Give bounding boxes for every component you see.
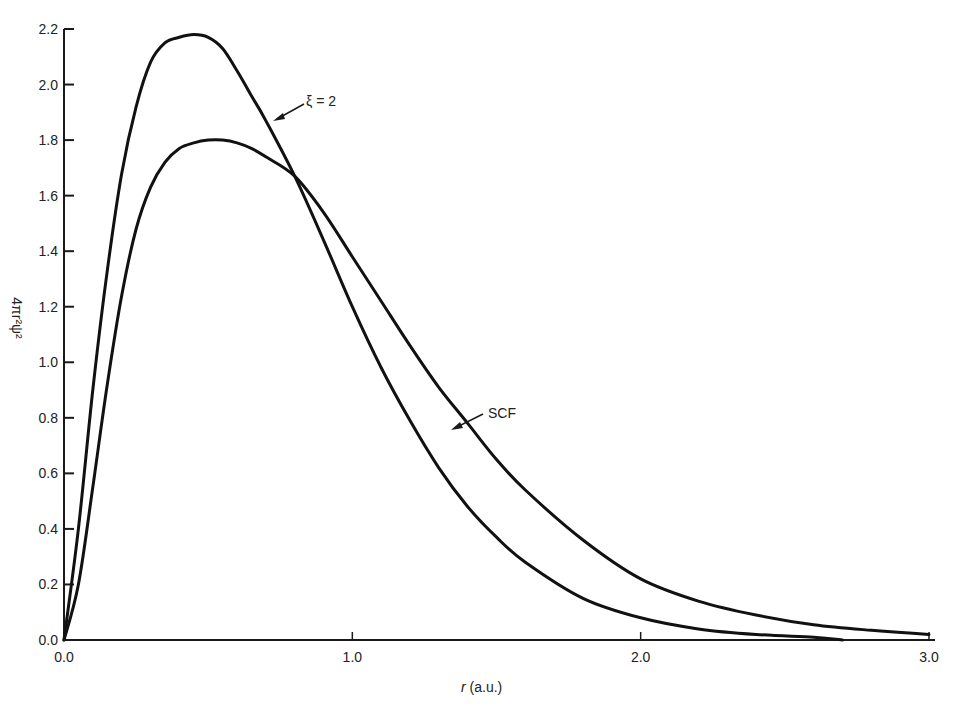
y-tick-label: 2.0 xyxy=(39,77,59,93)
y-tick-label: 1.2 xyxy=(39,299,59,315)
x-tick-label: 1.0 xyxy=(343,649,363,665)
scf-annotation: SCF xyxy=(451,405,516,430)
scf-annotation-arrowhead xyxy=(451,422,463,430)
y-tick-label: 0.8 xyxy=(39,410,59,426)
y-ticks: 0.00.20.40.60.81.01.21.41.61.82.02.2 xyxy=(39,21,74,648)
y-tick-label: 2.2 xyxy=(39,21,59,37)
xi-annotation-label: ξ = 2 xyxy=(306,93,336,109)
y-tick-label: 0.0 xyxy=(39,632,59,648)
x-axis-title: r (a.u.) xyxy=(461,679,502,695)
x-axis-unit: (a.u.) xyxy=(466,679,503,695)
curves xyxy=(64,35,929,640)
y-tick-label: 1.4 xyxy=(39,243,59,259)
y-tick-label: 1.0 xyxy=(39,354,59,370)
y-tick-label: 1.8 xyxy=(39,132,59,148)
xi-annotation-arrowhead xyxy=(273,113,285,121)
y-axis-title: 4πr²ψ² xyxy=(9,297,25,339)
xi-annotation: ξ = 2 xyxy=(273,93,336,121)
y-tick-label: 1.6 xyxy=(39,188,59,204)
scf-annotation-label: SCF xyxy=(488,405,516,421)
x-tick-label: 2.0 xyxy=(631,649,651,665)
x-tick-label: 3.0 xyxy=(919,649,939,665)
radial-distribution-chart: 0.00.20.40.60.81.01.21.41.61.82.02.2 0.0… xyxy=(0,0,958,705)
xi-2-curve xyxy=(64,35,843,640)
y-tick-label: 0.6 xyxy=(39,465,59,481)
y-tick-label: 0.4 xyxy=(39,521,59,537)
axes xyxy=(64,29,935,640)
y-tick-label: 0.2 xyxy=(39,576,59,592)
x-tick-label: 0.0 xyxy=(54,649,74,665)
scf-curve xyxy=(64,140,929,640)
